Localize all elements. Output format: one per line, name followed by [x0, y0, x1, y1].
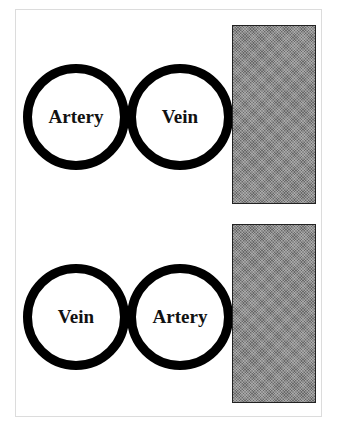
bottom-tissue-block	[232, 224, 316, 403]
bottom-left-vessel-circle: Vein	[23, 264, 129, 370]
vessel-label: Vein	[162, 106, 198, 128]
top-right-vessel-circle: Vein	[127, 64, 233, 170]
bottom-right-vessel-circle: Artery	[127, 264, 233, 370]
vessel-label: Vein	[58, 306, 94, 328]
top-left-vessel-circle: Artery	[23, 64, 129, 170]
vessel-label: Artery	[49, 106, 104, 128]
top-tissue-block	[232, 25, 316, 204]
vessel-label: Artery	[153, 306, 208, 328]
